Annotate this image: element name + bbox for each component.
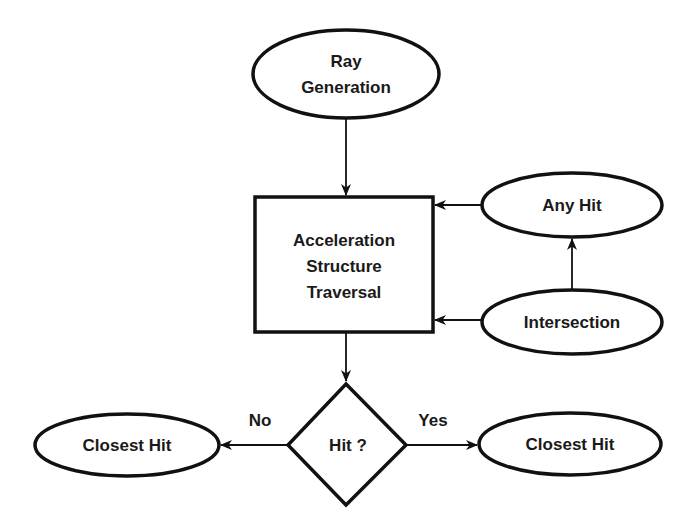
node-closest-hit-right: Closest Hit xyxy=(479,413,661,475)
edge-label-no: No xyxy=(249,411,272,430)
traversal-label-line1: Acceleration xyxy=(293,231,395,250)
node-acceleration-structure-traversal: Acceleration Structure Traversal xyxy=(255,197,433,332)
closest-hit-left-label: Closest Hit xyxy=(83,436,172,455)
intersection-label: Intersection xyxy=(524,313,620,332)
traversal-label-line3: Traversal xyxy=(307,283,382,302)
node-hit-decision: Hit ? xyxy=(288,384,406,505)
hit-decision-label: Hit ? xyxy=(329,436,367,455)
node-any-hit: Any Hit xyxy=(482,173,662,237)
node-intersection: Intersection xyxy=(482,290,662,354)
ray-generation-label-line2: Generation xyxy=(301,78,391,97)
edge-label-yes: Yes xyxy=(418,411,447,430)
node-closest-hit-left: Closest Hit xyxy=(35,414,219,476)
traversal-label-line2: Structure xyxy=(306,257,382,276)
closest-hit-right-label: Closest Hit xyxy=(526,435,615,454)
node-ray-generation: Ray Generation xyxy=(253,30,439,118)
ray-generation-label-line1: Ray xyxy=(330,52,362,71)
ray-tracing-pipeline-flowchart: Ray Generation Acceleration Structure Tr… xyxy=(0,0,695,530)
any-hit-label: Any Hit xyxy=(542,196,602,215)
